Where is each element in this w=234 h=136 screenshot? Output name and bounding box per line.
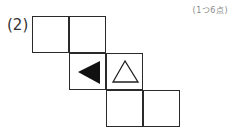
net-symbols bbox=[0, 0, 234, 136]
filled-triangle-left-icon bbox=[78, 61, 100, 84]
outline-triangle-up-icon bbox=[113, 61, 138, 82]
